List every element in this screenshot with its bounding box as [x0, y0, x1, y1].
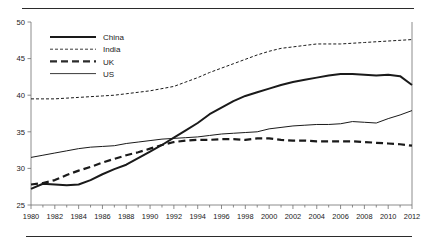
x-tick-label: 1990 [142, 212, 158, 221]
x-tick-label: 2008 [356, 212, 372, 221]
x-tick-label: 1982 [47, 212, 63, 221]
y-tick-label: 45 [17, 54, 25, 63]
legend-label-india: India [103, 45, 121, 54]
y-tick-label: 30 [17, 164, 25, 173]
x-tick-label: 1996 [213, 212, 229, 221]
chart-legend: ChinaIndiaUKUS [50, 33, 124, 79]
series-line-us [31, 111, 412, 158]
x-tick-label: 1992 [166, 212, 182, 221]
x-tick-label: 2002 [285, 212, 301, 221]
series-line-uk [31, 138, 412, 184]
figure-container: 253035404550 198019821984198619881990199… [0, 0, 426, 245]
x-tick-label: 1988 [118, 212, 134, 221]
x-tick-label: 1986 [94, 212, 110, 221]
legend-label-china: China [103, 33, 124, 42]
y-tick-label: 50 [17, 18, 25, 27]
x-tick-label: 2012 [404, 212, 420, 221]
y-tick-label: 40 [17, 91, 25, 100]
x-tick-label: 2004 [309, 212, 325, 221]
x-tick-label: 1998 [237, 212, 253, 221]
x-tick-label: 1994 [189, 212, 205, 221]
legend-label-uk: UK [103, 58, 115, 67]
x-tick-label: 2006 [332, 212, 348, 221]
series-line-india [31, 40, 412, 99]
x-tick-label: 2010 [380, 212, 396, 221]
x-tick-label: 1984 [70, 212, 86, 221]
y-tick-label: 25 [17, 201, 25, 210]
line-chart: 253035404550 198019821984198619881990199… [0, 0, 426, 245]
x-tick-label: 2000 [261, 212, 277, 221]
legend-label-us: US [103, 70, 114, 79]
y-tick-label: 35 [17, 128, 25, 137]
x-tick-label: 1980 [23, 212, 39, 221]
x-axis-ticks: 1980198219841986198819901992199419961998… [23, 205, 420, 221]
y-axis-ticks: 253035404550 [17, 18, 31, 210]
series-line-china [31, 74, 412, 189]
plot-frame [31, 22, 412, 205]
